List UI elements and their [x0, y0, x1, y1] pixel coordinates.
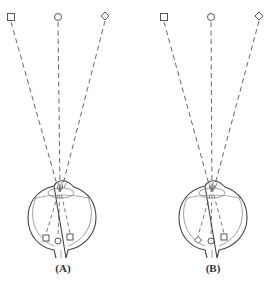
panel-b-pupil-rays — [209, 182, 217, 188]
panel-b-retina-image-1-circle-icon — [208, 238, 214, 244]
panel-b-label: (B) — [206, 262, 221, 274]
panel-b-ray-2 — [214, 21, 260, 190]
eye-diagram — [0, 0, 271, 285]
panel-b-ray-0 — [164, 22, 211, 190]
panel-a-retina-image-0-square-icon — [43, 235, 49, 241]
panel-b-object-1-circle-icon — [208, 14, 215, 21]
panel-a-pupil-rays — [58, 182, 66, 188]
panel-b-ciliary — [186, 195, 240, 198]
panel-a-retina-image-2-square-icon — [67, 234, 73, 240]
panel-a-object-0-square-icon — [8, 14, 15, 21]
panel-a-eyeball-outline — [28, 181, 96, 258]
panel-b-ray-1 — [211, 22, 212, 190]
panel-a-object-1-circle-icon — [55, 14, 62, 21]
panel-a-label: (A) — [55, 262, 70, 274]
panel-a-ray-0 — [11, 22, 59, 190]
panel-b-retina-image-0-diamond-icon — [195, 237, 202, 244]
panel-b-eyeball-outline — [179, 181, 247, 258]
panel-a-retina-image-1-circle-icon — [55, 238, 61, 244]
panel-a-ray-2 — [62, 21, 106, 190]
panel-b-object-2-diamond-icon — [255, 12, 263, 20]
panel-a-lens — [48, 188, 74, 198]
panel-a-ray-1 — [58, 22, 60, 190]
panel-b-retina-image-2-square-icon — [221, 234, 227, 240]
panel-b-object-0-square-icon — [161, 14, 168, 21]
panel-a-object-2-diamond-icon — [101, 12, 109, 20]
panel-a-retina — [33, 198, 92, 246]
